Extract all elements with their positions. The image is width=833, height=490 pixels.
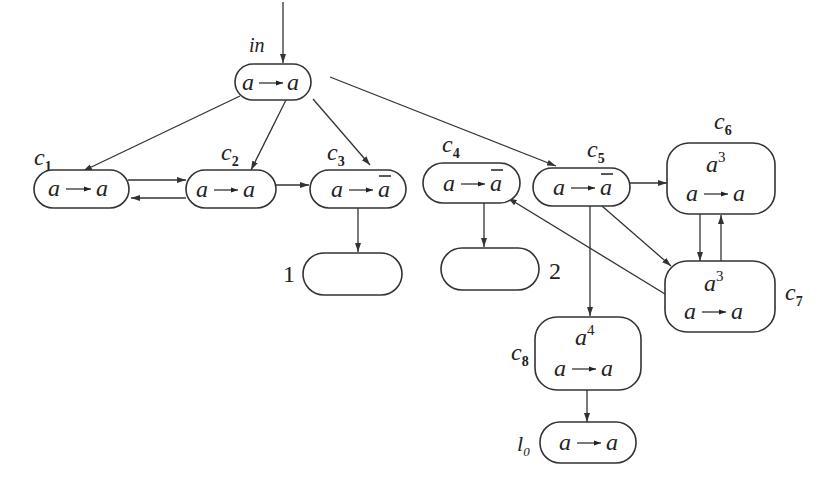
node-terminal-2-shape xyxy=(441,248,539,290)
node-label: c4 xyxy=(442,131,460,161)
rule-right: a xyxy=(733,180,745,206)
rule-right: a xyxy=(96,175,108,201)
rule-left: a xyxy=(196,176,208,202)
node-label: c8 xyxy=(511,339,529,369)
node-label: c7 xyxy=(785,279,803,309)
rule-right: a xyxy=(601,355,613,381)
terminal-label: 1 xyxy=(283,261,295,287)
node-in: in a a xyxy=(235,34,311,100)
rule-left: a xyxy=(553,174,565,200)
state-diagram: in a a c1 a a c2 a a c3 a a c4 a a xyxy=(0,0,833,490)
node-c3: c3 a a xyxy=(310,139,406,208)
node-c1: c1 a a xyxy=(34,144,129,208)
node-label: c3 xyxy=(327,139,345,169)
rule-left: a xyxy=(48,175,60,201)
node-c4-shape xyxy=(423,163,520,203)
rule-left: a xyxy=(554,355,566,381)
node-c5: c5 a a xyxy=(533,136,630,206)
node-terminal-1-shape xyxy=(303,253,402,295)
node-c7: c7 a3 a a xyxy=(665,261,803,332)
node-label: c5 xyxy=(587,136,605,166)
node-c5-shape xyxy=(533,168,630,206)
rule-left: a xyxy=(559,429,571,455)
node-terminal-2: 2 xyxy=(441,248,561,290)
edge-in-c2 xyxy=(251,100,286,170)
rule-right: a xyxy=(600,174,612,200)
rule-left: a xyxy=(242,69,254,95)
rule-right: a xyxy=(378,176,390,202)
rule-left: a xyxy=(443,170,455,196)
entry-label: in xyxy=(249,34,265,56)
terminal-label: 2 xyxy=(549,258,561,284)
rule-left: a xyxy=(686,180,698,206)
rule-left: a xyxy=(684,298,696,324)
node-c2: c2 a a xyxy=(186,139,276,208)
node-label: c1 xyxy=(34,144,52,174)
node-c6: c6 a3 a a xyxy=(667,108,775,214)
node-label: c6 xyxy=(714,108,732,138)
edge-c5-c7 xyxy=(602,206,671,266)
node-c4: c4 a a xyxy=(423,131,520,203)
rule-right: a xyxy=(606,429,618,455)
node-l0: l0 a a xyxy=(517,422,636,463)
node-label: c2 xyxy=(221,139,239,169)
edge-in-c1 xyxy=(83,96,240,171)
rule-right: a xyxy=(287,69,299,95)
node-c3-shape xyxy=(310,170,406,208)
node-label: l0 xyxy=(517,431,530,459)
rule-right: a xyxy=(731,298,743,324)
node-terminal-1: 1 xyxy=(283,253,402,295)
node-c8: c8 a4 a a xyxy=(511,317,641,390)
rule-right: a xyxy=(243,176,255,202)
rule-right: a xyxy=(490,170,502,196)
rule-left: a xyxy=(331,176,343,202)
